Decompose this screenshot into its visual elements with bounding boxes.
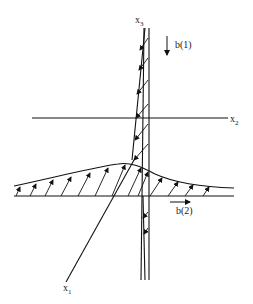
b2-label: b(2) <box>176 205 193 217</box>
x3-band-lower-left <box>143 196 145 280</box>
x3-hatching <box>134 38 148 234</box>
x2-label: x2 <box>230 113 239 127</box>
x3-label: x3 <box>135 14 144 28</box>
x1-label: x1 <box>63 282 72 296</box>
b1-label: b(1) <box>175 39 192 51</box>
dislocation-diagram: x3 b(1) x2 b(2) x1 <box>0 0 253 304</box>
x1-axis <box>66 160 134 282</box>
bell-hatching <box>16 165 209 196</box>
